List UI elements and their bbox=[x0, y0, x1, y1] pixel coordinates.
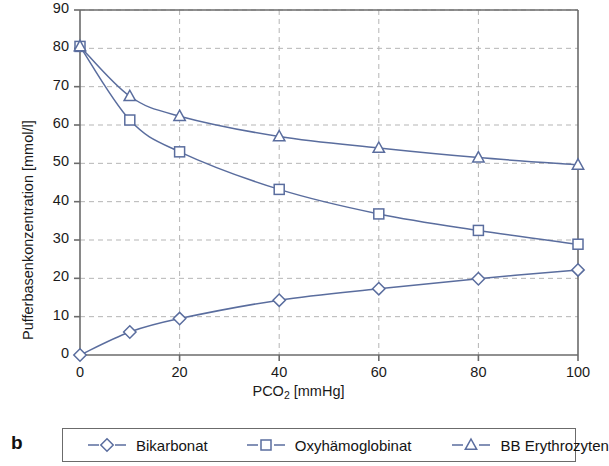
y-tick-label: 90 bbox=[35, 0, 69, 16]
y-tick-label: 80 bbox=[35, 38, 69, 54]
legend-entry-triangle[interactable]: BB Erythrozyten bbox=[451, 437, 608, 454]
y-tick-label: 70 bbox=[35, 77, 69, 93]
data-point-square bbox=[473, 225, 483, 235]
y-tick-label: 0 bbox=[35, 345, 69, 361]
legend-label: Oxyhämoglobinat bbox=[295, 437, 412, 454]
y-tick-label: 40 bbox=[35, 192, 69, 208]
y-tick-label: 20 bbox=[35, 268, 69, 284]
data-point-diamond bbox=[273, 294, 285, 306]
legend-marker-diamond-icon bbox=[87, 437, 127, 453]
y-tick-label: 60 bbox=[35, 115, 69, 131]
data-point-square bbox=[374, 209, 384, 219]
data-point-square bbox=[125, 115, 135, 125]
legend-entry-square[interactable]: Oxyhämoglobinat bbox=[246, 437, 412, 454]
line-chart bbox=[0, 0, 597, 412]
panel-label-b: b bbox=[11, 432, 23, 454]
data-point-square bbox=[261, 440, 271, 450]
data-point-triangle bbox=[466, 439, 477, 449]
y-tick-label: 10 bbox=[35, 307, 69, 323]
data-point-diamond bbox=[373, 282, 385, 294]
data-point-diamond bbox=[572, 264, 584, 276]
x-axis-title-unit: [mmHg] bbox=[290, 383, 345, 399]
data-point-triangle bbox=[124, 90, 135, 100]
y-tick-label: 50 bbox=[35, 153, 69, 169]
y-tick-label: 30 bbox=[35, 230, 69, 246]
data-point-diamond bbox=[74, 349, 86, 361]
data-point-square bbox=[175, 147, 185, 157]
legend-marker-square-icon bbox=[246, 437, 286, 453]
data-point-diamond bbox=[124, 326, 136, 338]
chart-legend: BikarbonatOxyhämoglobinatBB Erythrozyten bbox=[62, 428, 576, 462]
x-axis-title-base: PCO bbox=[252, 383, 283, 399]
x-tick-label: 100 bbox=[558, 364, 598, 380]
x-tick-label: 20 bbox=[160, 364, 200, 380]
legend-label: BB Erythrozyten bbox=[500, 437, 608, 454]
legend-entry-diamond[interactable]: Bikarbonat bbox=[87, 437, 208, 454]
legend-label: Bikarbonat bbox=[136, 437, 208, 454]
x-tick-label: 60 bbox=[359, 364, 399, 380]
data-point-square bbox=[274, 184, 284, 194]
data-point-diamond bbox=[101, 439, 113, 451]
series-line-1 bbox=[80, 46, 578, 244]
legend-marker-triangle-icon bbox=[451, 437, 491, 453]
series-line-2 bbox=[80, 46, 578, 164]
chart-area: Pufferbasenkonzentration [mmol/l] PCO2 [… bbox=[0, 0, 597, 412]
x-axis-title-subscript: 2 bbox=[284, 389, 290, 401]
data-point-diamond bbox=[173, 312, 185, 324]
series-line-0 bbox=[80, 270, 578, 355]
data-point-square bbox=[573, 239, 583, 249]
x-tick-label: 0 bbox=[60, 364, 100, 380]
x-tick-label: 80 bbox=[458, 364, 498, 380]
x-tick-label: 40 bbox=[259, 364, 299, 380]
y-axis-title: Pufferbasenkonzentration [mmol/l] bbox=[20, 120, 36, 340]
x-axis-title: PCO2 [mmHg] bbox=[0, 383, 597, 399]
data-point-diamond bbox=[472, 273, 484, 285]
